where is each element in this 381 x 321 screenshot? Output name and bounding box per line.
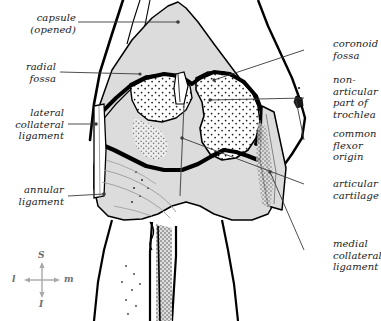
label-capsule: capsule (opened) bbox=[4, 12, 76, 35]
ulna-shaft-lateral-edge bbox=[172, 226, 176, 321]
compass-label-superior: S bbox=[38, 250, 45, 260]
anatomical-figure: capsule (opened) radial fossa lateral co… bbox=[0, 0, 381, 321]
lateral-collateral-ligament-band bbox=[94, 104, 106, 198]
compass-label-medial: m bbox=[64, 274, 74, 284]
radius-shaft-stipple bbox=[121, 265, 141, 315]
label-lateral-collateral-ligament: lateral collateral ligament bbox=[0, 107, 64, 142]
label-medial-collateral-ligament: medial collateral ligament bbox=[333, 238, 381, 273]
label-annular-ligament: annular ligament bbox=[0, 184, 64, 207]
compass-label-inferior: I bbox=[39, 299, 43, 309]
compass-label-lateral: l bbox=[12, 274, 15, 284]
radius-shaft-lateral-edge bbox=[94, 220, 112, 321]
label-coronoid-fossa: coronoid fossa bbox=[333, 38, 381, 61]
elbow-joint-illustration bbox=[0, 0, 381, 321]
orientation-compass bbox=[24, 262, 60, 298]
radius-shaft-medial-edge bbox=[150, 222, 152, 321]
ulna-shaft-medial-edge bbox=[222, 220, 238, 321]
label-non-articular-part-of-trochlea: non- articular part of trochlea bbox=[333, 74, 381, 120]
label-articular-cartilage: articular cartilage bbox=[333, 178, 381, 201]
label-radial-fossa: radial fossa bbox=[4, 61, 56, 84]
label-common-flexor-origin: common flexor origin bbox=[333, 128, 381, 163]
